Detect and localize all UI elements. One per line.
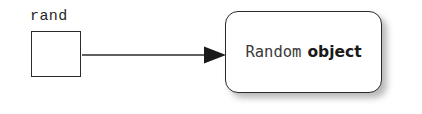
object-box-label: Random object	[245, 43, 361, 61]
diagram-canvas: rand Random object	[0, 0, 422, 114]
variable-label-rand: rand	[30, 7, 68, 26]
variable-reference-box	[31, 31, 81, 77]
object-kind-label: object	[307, 43, 361, 61]
object-type-name: Random	[245, 43, 301, 61]
arrow-head-icon	[204, 47, 226, 64]
object-box: Random object	[225, 11, 382, 93]
